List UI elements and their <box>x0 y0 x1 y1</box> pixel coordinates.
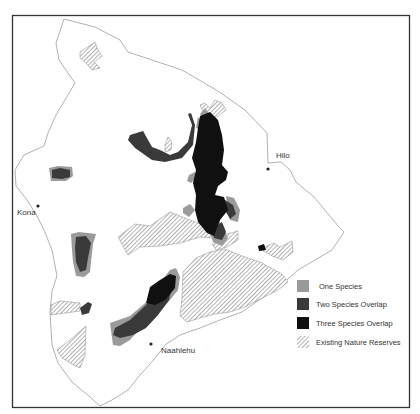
species-overlap-map: Hilo Kona Naahlehu One Species Two Speci… <box>0 0 420 414</box>
legend-swatch-reserves <box>297 336 309 348</box>
city-label-naahlehu: Naahlehu <box>161 346 195 355</box>
city-label-hilo: Hilo <box>276 151 290 160</box>
city-dot-naahlehu <box>149 342 152 345</box>
legend-label-three-species: Three Species Overlap <box>316 319 393 328</box>
legend-swatch-two-species <box>297 298 309 310</box>
city-dot-hilo <box>266 167 269 170</box>
city-label-kona: Kona <box>17 208 36 217</box>
city-dot-kona <box>36 204 39 207</box>
legend-label-one-species: One Species <box>319 282 362 291</box>
legend-label-two-species: Two Species Overlap <box>316 300 387 309</box>
legend-swatch-three-species <box>297 317 309 329</box>
legend-swatch-one-species <box>297 280 309 292</box>
legend-label-reserves: Existing Nature Reserves <box>316 338 401 347</box>
